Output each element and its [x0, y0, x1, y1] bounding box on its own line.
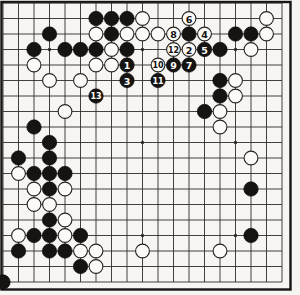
white-stone — [58, 182, 72, 196]
black-stone — [27, 228, 41, 242]
black-stone — [11, 244, 25, 258]
black-stone — [213, 89, 227, 103]
black-stone — [42, 213, 56, 227]
white-stone — [105, 58, 119, 72]
black-stone — [120, 11, 134, 25]
black-stone — [42, 244, 56, 258]
white-stone — [27, 58, 41, 72]
black-stone — [42, 166, 56, 180]
white-stone — [43, 74, 57, 88]
black-stone — [73, 42, 87, 56]
move-2-number: 2 — [186, 45, 193, 56]
black-stone — [73, 228, 87, 242]
white-stone — [89, 244, 103, 258]
black-stone — [104, 11, 118, 25]
go-diagram: 12345678910111213 — [0, 0, 300, 295]
black-stone — [11, 151, 25, 165]
star-point — [141, 234, 144, 237]
black-stone — [182, 27, 196, 41]
white-stone — [12, 229, 26, 243]
white-stone — [105, 43, 119, 57]
black-stone — [228, 27, 242, 41]
white-stone — [58, 105, 72, 119]
white-stone — [89, 260, 103, 274]
white-stone — [244, 43, 258, 57]
move-5-number: 5 — [201, 45, 208, 56]
star-point — [234, 234, 237, 237]
white-stone — [43, 198, 57, 212]
black-stone — [213, 73, 227, 87]
white-stone — [12, 167, 26, 181]
white-stone — [229, 74, 243, 88]
black-stone — [244, 228, 258, 242]
white-stone — [58, 229, 72, 243]
black-stone — [42, 182, 56, 196]
white-stone — [120, 27, 134, 41]
black-stone — [120, 42, 134, 56]
black-stone — [42, 27, 56, 41]
black-stone — [89, 11, 103, 25]
black-stone — [27, 166, 41, 180]
move-4-number: 4 — [201, 29, 208, 40]
move-12-number: 12 — [168, 46, 179, 55]
black-stone — [27, 42, 41, 56]
white-stone — [74, 244, 88, 258]
white-stone — [136, 27, 150, 41]
move-3-number: 3 — [124, 76, 131, 87]
white-stone — [260, 27, 274, 41]
star-point — [141, 141, 144, 144]
move-9-number: 9 — [170, 60, 177, 71]
go-board: 12345678910111213 — [0, 0, 300, 295]
white-stone — [136, 12, 150, 26]
white-stone — [89, 27, 103, 41]
white-stone — [244, 151, 258, 165]
move-6-number: 6 — [186, 14, 193, 25]
white-stone — [58, 213, 72, 227]
black-stone — [58, 166, 72, 180]
move-8-number: 8 — [170, 29, 177, 40]
black-stone — [89, 42, 103, 56]
white-stone — [213, 244, 227, 258]
white-stone — [260, 12, 274, 26]
star-point — [234, 48, 237, 51]
star-point — [141, 48, 144, 51]
white-stone — [151, 27, 165, 41]
black-stone — [42, 151, 56, 165]
white-stone — [74, 74, 88, 88]
move-10-number: 10 — [152, 61, 164, 70]
black-stone — [42, 228, 56, 242]
black-stone — [104, 27, 118, 41]
black-stone — [42, 135, 56, 149]
white-stone — [213, 120, 227, 134]
star-point — [48, 48, 51, 51]
white-stone — [27, 198, 41, 212]
move-13-number: 13 — [90, 92, 101, 101]
move-11-number: 11 — [152, 77, 164, 86]
move-1-number: 1 — [124, 60, 131, 71]
black-stone — [27, 120, 41, 134]
black-stone — [244, 182, 258, 196]
black-stone — [73, 259, 87, 273]
white-stone — [27, 182, 41, 196]
black-stone — [244, 27, 258, 41]
white-stone — [229, 89, 243, 103]
black-stone — [58, 42, 72, 56]
black-stone — [58, 244, 72, 258]
white-stone — [136, 244, 150, 258]
white-stone — [213, 105, 227, 119]
black-stone — [197, 104, 211, 118]
black-stone — [213, 42, 227, 56]
star-point — [234, 141, 237, 144]
move-7-number: 7 — [186, 60, 193, 71]
white-stone — [89, 58, 103, 72]
